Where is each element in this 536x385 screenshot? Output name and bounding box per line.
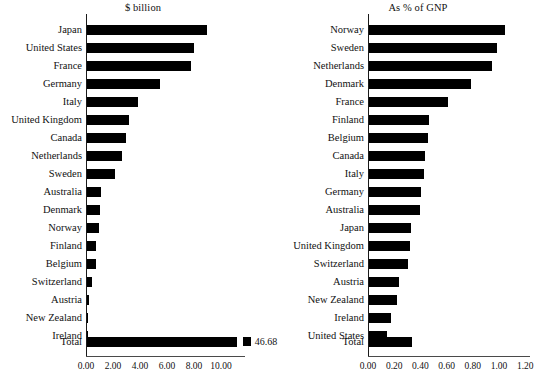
category-label: Netherlands <box>31 147 82 165</box>
category-label: Italy <box>63 93 82 111</box>
bar <box>87 25 207 35</box>
bar <box>369 79 471 89</box>
category-label: Finland <box>50 237 82 255</box>
bar-row: France <box>0 57 268 75</box>
x-tick-label: 4.00 <box>132 361 149 372</box>
bar-row: Belgium <box>268 129 536 147</box>
bar-row: Belgium <box>0 255 268 273</box>
bar <box>87 97 138 107</box>
bar <box>87 133 126 143</box>
x-tick-label: 2.00 <box>105 361 122 372</box>
x-tick-label: 0.20 <box>386 361 403 372</box>
bar-row: Netherlands <box>268 57 536 75</box>
bar-row: United Kingdom <box>0 111 268 129</box>
x-tick-label: 10.00 <box>210 361 231 372</box>
category-label: Ireland <box>334 309 364 327</box>
bar-row: Netherlands <box>0 147 268 165</box>
bar-row: Finland <box>0 237 268 255</box>
bar-row-total: Total <box>0 333 268 351</box>
bar <box>369 115 429 125</box>
x-tick-label: 8.00 <box>186 361 203 372</box>
bar <box>369 295 397 305</box>
category-label: United States <box>26 39 82 57</box>
bar-row: Italy <box>268 165 536 183</box>
total-value-swatch <box>243 337 251 346</box>
bar-total <box>87 337 237 347</box>
category-label: Denmark <box>43 201 82 219</box>
x-axis-line <box>368 356 530 357</box>
category-label: New Zealand <box>26 309 82 327</box>
category-label: Sweden <box>331 39 364 57</box>
chart-panel-dollar-billion: $ billion JapanUnited StatesFranceGerman… <box>0 0 268 385</box>
chart-panel-percent-gnp: As % of GNP NorwaySwedenNetherlandsDenma… <box>268 0 536 385</box>
bar <box>87 169 115 179</box>
category-label: Japan <box>58 21 82 39</box>
category-label: Australia <box>44 183 83 201</box>
bar-row: Japan <box>0 21 268 39</box>
category-label: Canada <box>51 129 83 147</box>
bar-row: France <box>268 93 536 111</box>
category-label: France <box>53 57 82 75</box>
x-tick-label: 6.00 <box>159 361 176 372</box>
x-tick-label: 0.80 <box>464 361 481 372</box>
x-tick-label: 1.20 <box>517 361 534 372</box>
bar-row: Germany <box>0 75 268 93</box>
category-label: Switzerland <box>314 255 364 273</box>
bar-row: Norway <box>268 21 536 39</box>
bar <box>369 61 492 71</box>
category-label: Finland <box>332 111 364 129</box>
bar <box>369 277 399 287</box>
bar <box>369 241 410 251</box>
bar-row: Canada <box>0 129 268 147</box>
category-label: Belgium <box>328 129 364 147</box>
bar-row: Switzerland <box>268 255 536 273</box>
bar-row-total: Total <box>268 333 536 351</box>
bar-row: United States <box>0 39 268 57</box>
bar-row: Denmark <box>268 75 536 93</box>
bar <box>369 25 505 35</box>
bar-row: Germany <box>268 183 536 201</box>
bar <box>369 313 391 323</box>
bar-row: Austria <box>0 291 268 309</box>
bar-row: Switzerland <box>0 273 268 291</box>
category-label: Italy <box>345 165 364 183</box>
bar <box>369 187 421 197</box>
x-tick-label: 0.60 <box>438 361 455 372</box>
bar-row: Japan <box>268 219 536 237</box>
total-label: Total <box>61 333 82 351</box>
bar <box>87 313 88 323</box>
x-tick-label: 1.00 <box>491 361 508 372</box>
bar-row: New Zealand <box>0 309 268 327</box>
plot-area-right: NorwaySwedenNetherlandsDenmarkFranceFinl… <box>268 0 536 385</box>
bar <box>87 223 99 233</box>
bar <box>87 295 89 305</box>
category-label: New Zealand <box>308 291 364 309</box>
bar <box>87 151 122 161</box>
bar-row: Austria <box>268 273 536 291</box>
bar <box>87 205 100 215</box>
category-label: Denmark <box>325 75 364 93</box>
category-label: Austria <box>333 273 364 291</box>
bar-row: Sweden <box>0 165 268 183</box>
bar-row: Denmark <box>0 201 268 219</box>
category-label: Germany <box>325 183 364 201</box>
category-label: Canada <box>333 147 365 165</box>
bar-row: New Zealand <box>268 291 536 309</box>
category-label: United Kingdom <box>293 237 364 255</box>
bar <box>369 133 428 143</box>
x-tick-label: 0.40 <box>412 361 429 372</box>
bar <box>369 259 408 269</box>
bar <box>87 241 96 251</box>
bar <box>369 169 424 179</box>
bar <box>87 61 191 71</box>
category-label: Germany <box>43 75 82 93</box>
x-tick-label: 0.00 <box>360 361 377 372</box>
aid-comparison-figure: $ billion JapanUnited StatesFranceGerman… <box>0 0 536 385</box>
bar-row: Norway <box>0 219 268 237</box>
bar-row: United Kingdom <box>268 237 536 255</box>
bar <box>369 97 448 107</box>
plot-area-left: JapanUnited StatesFranceGermanyItalyUnit… <box>0 0 268 385</box>
bar <box>369 205 420 215</box>
category-label: Japan <box>340 219 364 237</box>
bar <box>87 79 160 89</box>
